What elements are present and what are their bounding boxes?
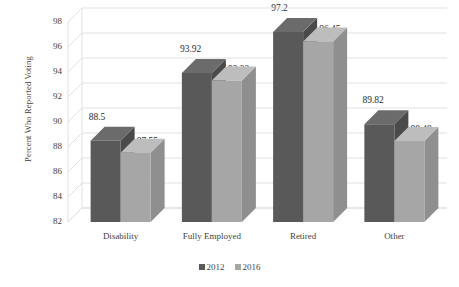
legend-swatch-icon <box>235 264 241 270</box>
legend-item-2016[interactable]: 2016 <box>235 262 261 272</box>
bar-2016-fully-employed <box>212 67 256 223</box>
bar-2016-disability <box>121 139 165 222</box>
legend-swatch-icon <box>199 264 205 270</box>
y-axis-tick: 84 <box>36 191 62 201</box>
y-axis-tick: 92 <box>36 91 62 101</box>
x-axis-tick: Other <box>344 231 444 241</box>
bar-front-face <box>273 32 303 222</box>
bar-front-face <box>91 141 121 222</box>
gridline <box>68 8 447 22</box>
bar-front-face <box>182 73 212 222</box>
bar-side-face <box>333 27 347 222</box>
y-axis-tick: 90 <box>36 116 62 126</box>
y-axis-tick: 82 <box>36 216 62 226</box>
legend-label: 2016 <box>243 262 261 272</box>
y-axis-tick: 88 <box>36 141 62 151</box>
x-axis-tick: Fully Employed <box>162 231 262 241</box>
chart-canvas <box>0 0 459 287</box>
y-axis-tick: 96 <box>36 41 62 51</box>
legend: 20122016 <box>0 262 459 272</box>
gridline <box>68 58 447 72</box>
bar-front-face <box>212 81 242 223</box>
x-axis-tick: Retired <box>253 231 353 241</box>
y-axis-tick: 98 <box>36 16 62 26</box>
bar-chart: 88.587.5593.9293.3297.296.4589.8288.4882… <box>0 0 459 287</box>
x-axis-tick: Disability <box>71 231 171 241</box>
bar-front-face <box>394 141 424 222</box>
bar-side-face <box>424 127 438 222</box>
bar-side-face <box>151 139 165 222</box>
bar-side-face <box>242 67 256 223</box>
legend-label: 2012 <box>207 262 225 272</box>
gridline <box>68 83 447 97</box>
bar-2016-other <box>394 127 438 222</box>
bar-2016-retired <box>303 27 347 222</box>
bar-front-face <box>364 124 394 222</box>
bar-front-face <box>303 41 333 222</box>
legend-item-2012[interactable]: 2012 <box>199 262 225 272</box>
bar-front-face <box>121 153 151 222</box>
y-axis-tick: 86 <box>36 166 62 176</box>
y-axis-tick: 94 <box>36 66 62 76</box>
gridline <box>68 33 447 47</box>
y-axis-title: Percent Who Reported Voting <box>23 14 33 204</box>
